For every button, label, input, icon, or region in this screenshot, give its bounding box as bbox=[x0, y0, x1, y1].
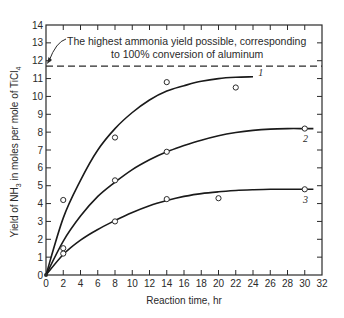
y-tick-label: 9 bbox=[37, 109, 43, 120]
data-point-marker bbox=[302, 187, 307, 192]
curve-label-3: 3 bbox=[302, 194, 308, 205]
x-tick-label: 12 bbox=[144, 278, 156, 289]
x-tick-label: 22 bbox=[230, 278, 242, 289]
curve-2 bbox=[46, 129, 313, 275]
curve-label-1: 1 bbox=[258, 67, 263, 78]
x-tick-label: 6 bbox=[95, 278, 101, 289]
plot-frame bbox=[46, 25, 322, 275]
data-point-marker bbox=[233, 85, 238, 90]
arrowhead-icon bbox=[47, 57, 52, 64]
y-tick-label: 7 bbox=[37, 145, 43, 156]
y-tick-label: 4 bbox=[37, 198, 43, 209]
x-tick-label: 8 bbox=[112, 278, 118, 289]
x-tick-label: 30 bbox=[299, 278, 311, 289]
y-tick-label: 13 bbox=[32, 37, 44, 48]
ammonia-yield-chart: 02468101214161820222426283032 0123456789… bbox=[0, 0, 344, 318]
x-tick-label: 4 bbox=[78, 278, 84, 289]
data-point-marker bbox=[112, 178, 117, 183]
data-point-marker bbox=[112, 219, 117, 224]
x-tick-label: 16 bbox=[178, 278, 190, 289]
y-tick-label: 12 bbox=[32, 55, 44, 66]
data-point-marker bbox=[61, 197, 66, 202]
y-tick-label: 6 bbox=[37, 162, 43, 173]
y-tick-label: 10 bbox=[32, 91, 44, 102]
annotation-line-1: The highest ammonia yield possible, corr… bbox=[67, 35, 306, 47]
x-tick-label: 2 bbox=[60, 278, 66, 289]
y-tick-label: 1 bbox=[37, 252, 43, 263]
x-tick-label: 24 bbox=[247, 278, 259, 289]
data-point-marker bbox=[61, 246, 66, 251]
x-tick-label: 0 bbox=[43, 278, 49, 289]
data-point-marker bbox=[302, 126, 307, 131]
y-tick-label: 8 bbox=[37, 127, 43, 138]
x-tick-label: 18 bbox=[196, 278, 208, 289]
x-tick-label: 20 bbox=[213, 278, 225, 289]
y-tick-label: 5 bbox=[37, 180, 43, 191]
y-tick-label: 0 bbox=[37, 270, 43, 281]
data-point-marker bbox=[164, 197, 169, 202]
x-tick-label: 28 bbox=[282, 278, 294, 289]
y-tick-label: 11 bbox=[33, 73, 44, 84]
curve-3 bbox=[46, 189, 313, 275]
yield-curves bbox=[46, 77, 313, 275]
x-tick-label: 26 bbox=[265, 278, 277, 289]
data-point-marker bbox=[216, 196, 221, 201]
x-tick-label: 14 bbox=[161, 278, 173, 289]
y-tick-label: 14 bbox=[32, 20, 44, 31]
annotation-arrow-icon bbox=[49, 39, 66, 61]
y-axis-title: Yield of NH3 in moles per mole of TiCl4 bbox=[9, 66, 22, 237]
y-tick-label: 2 bbox=[37, 234, 43, 245]
curve-label-2: 2 bbox=[303, 133, 308, 144]
x-axis-title: Reaction time, hr bbox=[146, 295, 222, 306]
data-point-marker bbox=[164, 80, 169, 85]
data-point-marker bbox=[164, 149, 169, 154]
data-point-marker bbox=[112, 135, 117, 140]
data-point-marker bbox=[61, 251, 66, 256]
x-axis-ticks: 02468101214161820222426283032 bbox=[43, 25, 328, 289]
y-tick-label: 3 bbox=[37, 216, 43, 227]
data-point-markers bbox=[44, 80, 307, 277]
x-tick-label: 10 bbox=[127, 278, 139, 289]
curve-labels: 123 bbox=[258, 67, 308, 205]
plot-border bbox=[46, 25, 322, 275]
curve-1 bbox=[46, 77, 253, 275]
x-tick-label: 32 bbox=[316, 278, 328, 289]
origin-point-marker bbox=[44, 273, 48, 277]
annotation-line-2: to 100% conversion of aluminum bbox=[111, 48, 264, 60]
